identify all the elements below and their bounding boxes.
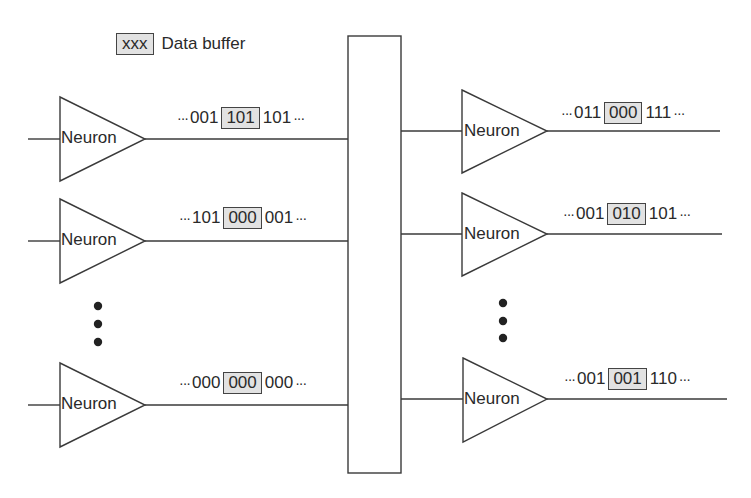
data-buffer: 000: [223, 372, 261, 394]
output-neuron-label: Neuron: [464, 121, 520, 141]
data-buffer: 101: [221, 107, 259, 129]
data-buffer: 001: [608, 368, 646, 390]
input-neuron-label: Neuron: [61, 128, 117, 148]
output-stream: ··· 011 000 111 ···: [559, 102, 686, 124]
input-stream: ··· 101 000 001 ···: [177, 207, 308, 229]
input-neuron-label: Neuron: [61, 394, 117, 414]
input-stream: ··· 001 101 101 ···: [175, 107, 306, 129]
output-stream: ··· 001 001 110 ···: [562, 368, 692, 390]
input-neuron-label: Neuron: [61, 230, 117, 250]
data-buffer: 000: [223, 207, 261, 229]
routing-box: [348, 36, 401, 473]
input-stream: ··· 000 000 000 ···: [177, 372, 308, 394]
output-stream: ··· 001 010 101 ···: [561, 203, 692, 225]
legend: xxx Data buffer: [116, 33, 245, 55]
legend-swatch: xxx: [116, 33, 154, 55]
data-buffer: 010: [607, 203, 645, 225]
data-buffer: 000: [604, 102, 642, 124]
vertical-ellipsis-icon: [94, 299, 507, 346]
output-neuron-label: Neuron: [464, 224, 520, 244]
output-neuron-label: Neuron: [464, 389, 520, 409]
legend-label: Data buffer: [162, 34, 246, 54]
